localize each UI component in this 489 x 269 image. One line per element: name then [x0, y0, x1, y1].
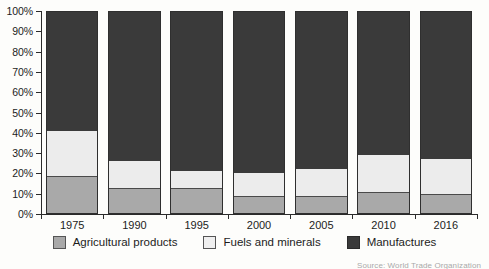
segment-fuels-and-minerals-1975 — [47, 131, 98, 177]
y-axis-tick-label: 80% — [12, 46, 33, 57]
y-axis-tick — [36, 153, 41, 154]
segment-manufactures-2005 — [296, 12, 347, 169]
x-axis-tick — [477, 214, 478, 219]
segment-agricultural-products-2016 — [421, 195, 472, 213]
x-axis-tick — [166, 214, 167, 219]
y-axis-tick — [36, 113, 41, 114]
segment-manufactures-1975 — [47, 12, 98, 131]
x-axis-tick — [352, 214, 353, 219]
y-axis-tick-label: 60% — [12, 87, 33, 98]
segment-manufactures-2016 — [421, 12, 472, 159]
x-axis-tick-label-1995: 1995 — [184, 220, 208, 231]
segment-agricultural-products-1990 — [109, 189, 160, 213]
x-axis-tick — [415, 214, 416, 219]
y-axis-tick-label: 30% — [12, 148, 33, 159]
segment-manufactures-1995 — [171, 12, 222, 171]
y-axis-tick — [36, 52, 41, 53]
segment-fuels-and-minerals-2016 — [421, 159, 472, 195]
legend-swatch-fuels — [203, 236, 216, 249]
y-axis-tick — [36, 92, 41, 93]
y-axis-tick-label: 50% — [12, 107, 33, 118]
segment-manufactures-1990 — [109, 12, 160, 161]
y-axis-tick-label: 20% — [12, 168, 33, 179]
segment-manufactures-2000 — [234, 12, 285, 173]
y-axis-tick-label: 100% — [7, 6, 33, 17]
x-axis-tick-label-2016: 2016 — [434, 220, 458, 231]
source-note: Source: World Trade Organization — [357, 261, 481, 269]
chart-legend: Agricultural productsFuels and mineralsM… — [0, 236, 489, 249]
bar-2005 — [295, 11, 348, 214]
segment-agricultural-products-2005 — [296, 197, 347, 213]
legend-item-1[interactable]: Fuels and minerals — [203, 236, 320, 249]
legend-item-label: Fuels and minerals — [223, 237, 320, 249]
y-axis-tick-label: 40% — [12, 128, 33, 139]
segment-agricultural-products-1995 — [171, 189, 222, 213]
x-axis-tick-label-2010: 2010 — [371, 220, 395, 231]
y-axis-tick-label: 0% — [18, 209, 33, 220]
y-axis-tick-label: 90% — [12, 26, 33, 37]
bar-1995 — [170, 11, 223, 214]
y-axis-tick — [36, 11, 41, 12]
x-axis-tick — [41, 214, 42, 219]
x-axis-tick — [290, 214, 291, 219]
y-axis-tick — [36, 72, 41, 73]
segment-fuels-and-minerals-1990 — [109, 161, 160, 189]
segment-fuels-and-minerals-1995 — [171, 171, 222, 189]
segment-fuels-and-minerals-2010 — [358, 155, 409, 193]
segment-fuels-and-minerals-2005 — [296, 169, 347, 197]
segment-agricultural-products-1975 — [47, 177, 98, 213]
y-axis-tick — [36, 133, 41, 134]
legend-swatch-agricultural — [53, 236, 66, 249]
bar-1975 — [46, 11, 99, 214]
segment-agricultural-products-2000 — [234, 197, 285, 213]
legend-item-label: Manufactures — [367, 237, 437, 249]
bar-1990 — [108, 11, 161, 214]
y-axis-tick-label: 70% — [12, 67, 33, 78]
y-axis-tick — [36, 173, 41, 174]
x-axis-line — [41, 214, 478, 215]
x-axis-tick-label-2005: 2005 — [309, 220, 333, 231]
x-axis-tick-label-1975: 1975 — [60, 220, 84, 231]
segment-fuels-and-minerals-2000 — [234, 173, 285, 197]
legend-item-label: Agricultural products — [73, 237, 178, 249]
legend-swatch-manufactures — [347, 236, 360, 249]
segment-manufactures-2010 — [358, 12, 409, 155]
x-axis-tick — [228, 214, 229, 219]
legend-item-2[interactable]: Manufactures — [347, 236, 437, 249]
y-axis-tick — [36, 31, 41, 32]
plot-area: 0%10%20%30%40%50%60%70%80%90%100% — [41, 11, 477, 214]
bar-2016 — [420, 11, 473, 214]
x-axis-tick-label-2000: 2000 — [247, 220, 271, 231]
x-axis-tick — [103, 214, 104, 219]
y-axis-tick-label: 10% — [12, 188, 33, 199]
y-axis-tick — [36, 194, 41, 195]
legend-item-0[interactable]: Agricultural products — [53, 236, 178, 249]
bar-2000 — [233, 11, 286, 214]
segment-agricultural-products-2010 — [358, 193, 409, 213]
bar-2010 — [357, 11, 410, 214]
x-axis-tick-label-1990: 1990 — [122, 220, 146, 231]
